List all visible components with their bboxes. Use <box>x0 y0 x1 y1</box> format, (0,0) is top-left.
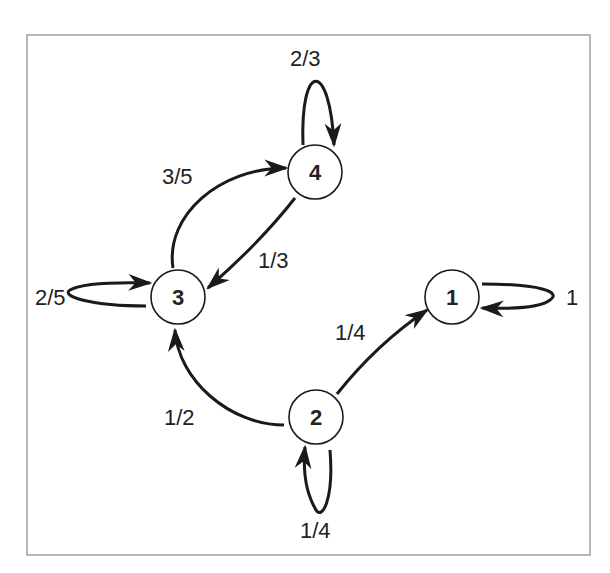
node-2: 2 <box>289 390 343 444</box>
edge-4-4 <box>303 81 334 145</box>
diagram-frame <box>27 35 590 555</box>
edge-label-2-1: 1/4 <box>335 320 366 345</box>
edge-label-2-3: 1/2 <box>164 405 195 430</box>
edge-label-4-3: 1/3 <box>258 248 289 273</box>
edge-label-4-4: 2/3 <box>290 46 321 71</box>
edge-3-3 <box>68 283 150 306</box>
node-4: 4 <box>288 145 342 199</box>
state-diagram: 2/3 3/5 1/3 2/5 1 1/4 1/2 1/4 4 3 1 2 <box>0 0 610 573</box>
node-1-label: 1 <box>446 285 458 310</box>
node-2-label: 2 <box>310 405 322 430</box>
node-1: 1 <box>425 270 479 324</box>
edge-2-2 <box>304 447 330 513</box>
edge-4-3 <box>208 198 295 288</box>
edge-label-3-3: 2/5 <box>35 285 66 310</box>
edge-label-1-1: 1 <box>566 285 578 310</box>
node-3-label: 3 <box>172 285 184 310</box>
edge-1-1 <box>482 284 553 308</box>
edge-label-3-4: 3/5 <box>162 164 193 189</box>
edge-label-2-2: 1/4 <box>300 518 331 543</box>
node-4-label: 4 <box>309 160 322 185</box>
node-3: 3 <box>151 270 205 324</box>
